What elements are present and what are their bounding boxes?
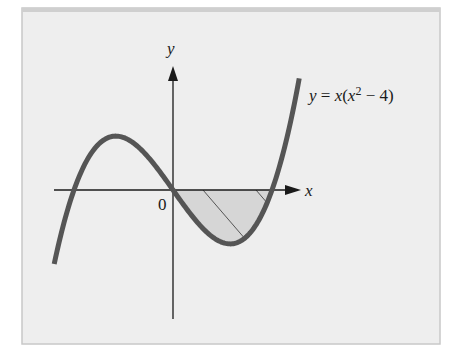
figure: x y 0 y = x(x2 − 4) <box>0 0 466 360</box>
panel-top-border <box>22 8 440 12</box>
y-axis-label: y <box>165 39 175 58</box>
x-axis-label: x <box>304 181 313 200</box>
origin-label: 0 <box>158 195 167 214</box>
equation-label: y = x(x2 − 4) <box>307 84 394 105</box>
figure-panel <box>22 8 440 344</box>
